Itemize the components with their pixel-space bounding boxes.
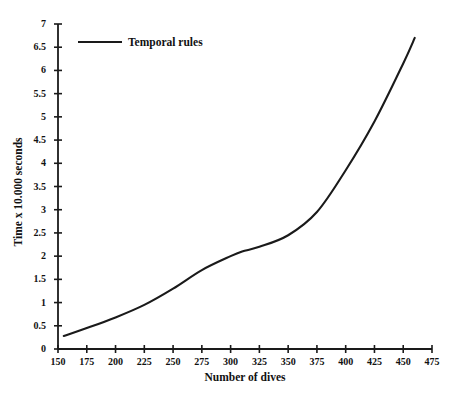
x-tick-label: 375: [309, 357, 324, 367]
y-tick-label: 0: [12, 344, 46, 354]
x-tick-label: 250: [166, 357, 181, 367]
chart-canvas: [0, 0, 471, 400]
x-tick-label: 225: [137, 357, 152, 367]
x-tick-label: 150: [51, 357, 66, 367]
x-tick-label: 350: [281, 357, 296, 367]
series-line-temporal-rules: [64, 38, 415, 336]
x-tick-label: 325: [252, 357, 267, 367]
x-tick-label: 425: [367, 357, 382, 367]
chart-legend: Temporal rules: [78, 36, 203, 48]
chart-figure: 00.511.522.533.544.555.566.57 1501752002…: [0, 0, 471, 400]
axis-group: [58, 24, 432, 349]
x-axis-title: Number of dives: [58, 371, 432, 383]
x-tick-label: 200: [108, 357, 123, 367]
x-tick-label: 275: [194, 357, 209, 367]
x-tick-label: 175: [79, 357, 94, 367]
y-tick-label: 0.5: [12, 321, 46, 331]
x-tick-label: 475: [425, 357, 440, 367]
y-tick-label: 7: [12, 19, 46, 29]
y-tick-label: 6.5: [12, 42, 46, 52]
legend-line-swatch: [78, 41, 122, 43]
legend-label: Temporal rules: [128, 36, 203, 48]
x-tick-label: 450: [396, 357, 411, 367]
y-axis-title: Time x 10.000 seconds: [12, 92, 24, 292]
x-tick-label: 300: [223, 357, 238, 367]
y-tick-label: 1: [12, 298, 46, 308]
y-tick-label: 6: [12, 65, 46, 75]
x-tick-label: 400: [338, 357, 353, 367]
data-series-group: [64, 38, 415, 336]
